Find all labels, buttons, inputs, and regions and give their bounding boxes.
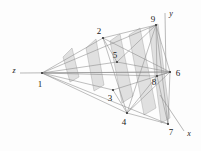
edge-1-4: [42, 73, 127, 113]
node-label-4: 4: [122, 117, 127, 127]
node-dot-1[interactable]: [41, 72, 43, 74]
node-dot-7[interactable]: [167, 123, 169, 125]
node-dot-2[interactable]: [102, 37, 104, 39]
fin-polygon: [110, 34, 133, 103]
node-label-5: 5: [113, 50, 118, 60]
node-dot-9[interactable]: [155, 24, 157, 26]
figure-canvas: 1 2 3 4 5 6 7 8 9 z y x: [0, 0, 201, 151]
wireframe-diagram: 1 2 3 4 5 6 7 8 9 z y x: [0, 0, 201, 151]
node-dot-5[interactable]: [116, 61, 118, 63]
node-label-2: 2: [97, 26, 102, 36]
z-axis-label: z: [11, 66, 16, 75]
node-label-7: 7: [169, 127, 174, 137]
node-label-1: 1: [38, 79, 43, 89]
y-axis-line: [165, 13, 166, 74]
node-label-9: 9: [151, 14, 156, 24]
node-label-6: 6: [176, 68, 181, 78]
x-axis-label: x: [186, 129, 191, 138]
node-label-3: 3: [108, 93, 113, 103]
node-label-8: 8: [152, 77, 157, 87]
y-axis-label: y: [168, 9, 173, 18]
node-dot-4[interactable]: [126, 112, 128, 114]
node-dot-6[interactable]: [169, 71, 171, 73]
edge-1-5: [42, 62, 117, 73]
node-dot-3[interactable]: [112, 89, 114, 91]
